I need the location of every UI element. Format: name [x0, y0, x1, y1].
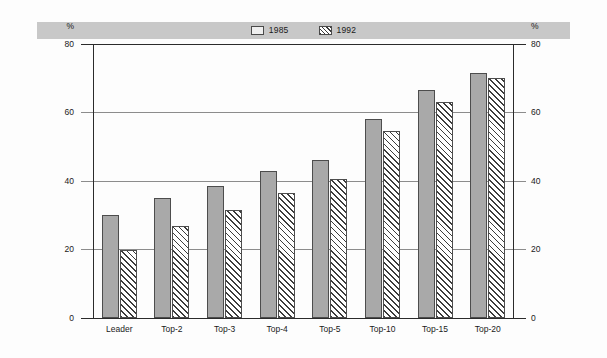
bar-1992-top-3[interactable]: [225, 210, 242, 318]
x-axis-category-labels: LeaderTop-2Top-3Top-4Top-5Top-10Top-15To…: [93, 325, 514, 339]
y-tick-label-right-40: 40: [531, 177, 540, 186]
tick-right-60: [514, 112, 526, 113]
y-tick-label-left-40: 40: [65, 177, 74, 186]
legend-item-1985: 1985: [251, 26, 289, 35]
solid-swatch-icon: [251, 26, 264, 35]
y-tick-label-right-80: 80: [531, 40, 540, 49]
bar-group-top-15: [418, 44, 453, 318]
tick-right-80: [514, 44, 526, 45]
bar-1992-top-5[interactable]: [330, 179, 347, 318]
legend-label-1985: 1985: [269, 26, 289, 35]
bar-chart: 1985 1992 % % 80 60 40 20 0 80 60 40 20 …: [0, 0, 607, 358]
y-axis-right-unit: %: [531, 22, 539, 31]
bar-group-top-10: [365, 44, 400, 318]
bar-group-top-2: [154, 44, 189, 318]
tick-left-0: [81, 318, 93, 319]
tick-left-80: [81, 44, 93, 45]
bars-layer: [93, 44, 514, 318]
legend-label-1992: 1992: [337, 26, 357, 35]
y-tick-label-left-0: 0: [69, 314, 74, 323]
bar-1985-top-3[interactable]: [207, 186, 224, 318]
y-tick-label-right-0: 0: [531, 314, 536, 323]
tick-left-20: [81, 249, 93, 250]
x-label-top-3: Top-3: [214, 325, 235, 334]
y-tick-label-left-80: 80: [65, 40, 74, 49]
bar-1992-top-10[interactable]: [383, 131, 400, 318]
axis-baseline-0: [93, 318, 514, 319]
bar-1985-top-4[interactable]: [260, 171, 277, 318]
bar-1985-top-2[interactable]: [154, 198, 171, 318]
bar-1985-top-20[interactable]: [470, 73, 487, 318]
legend-band: 1985 1992: [37, 22, 570, 39]
hatch-swatch-icon: [319, 26, 332, 35]
x-label-top-5: Top-5: [319, 325, 340, 334]
tick-left-40: [81, 181, 93, 182]
y-tick-label-right-60: 60: [531, 108, 540, 117]
bar-1992-top-2[interactable]: [172, 226, 189, 318]
bar-group-top-20: [470, 44, 505, 318]
y-axis-left-unit: %: [66, 22, 74, 31]
legend: 1985 1992: [37, 22, 570, 39]
tick-right-40: [514, 181, 526, 182]
bar-1985-leader[interactable]: [102, 215, 119, 318]
bar-1992-top-15[interactable]: [436, 102, 453, 318]
y-tick-label-right-20: 20: [531, 245, 540, 254]
x-label-leader: Leader: [106, 325, 132, 334]
y-tick-label-left-20: 20: [65, 245, 74, 254]
bar-1985-top-5[interactable]: [312, 160, 329, 318]
bar-1985-top-15[interactable]: [418, 90, 435, 318]
tick-left-60: [81, 112, 93, 113]
bar-group-leader: [102, 44, 137, 318]
x-label-top-2: Top-2: [161, 325, 182, 334]
bar-group-top-4: [260, 44, 295, 318]
bar-group-top-5: [312, 44, 347, 318]
x-label-top-15: Top-15: [422, 325, 448, 334]
tick-right-0: [514, 318, 526, 319]
bar-1992-top-4[interactable]: [278, 193, 295, 318]
bar-1992-leader[interactable]: [120, 250, 137, 319]
bar-group-top-3: [207, 44, 242, 318]
legend-item-1992: 1992: [319, 26, 357, 35]
x-label-top-20: Top-20: [475, 325, 501, 334]
bar-1992-top-20[interactable]: [488, 78, 505, 318]
x-label-top-10: Top-10: [369, 325, 395, 334]
bar-1985-top-10[interactable]: [365, 119, 382, 318]
x-label-top-4: Top-4: [267, 325, 288, 334]
tick-right-20: [514, 249, 526, 250]
y-tick-label-left-60: 60: [65, 108, 74, 117]
